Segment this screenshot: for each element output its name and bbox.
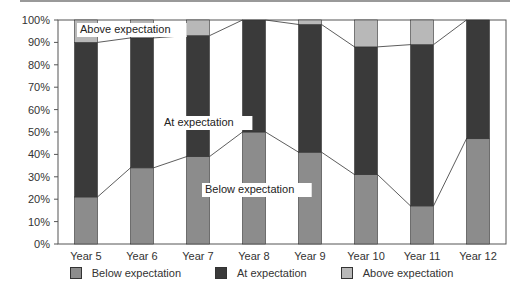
annotation-label: Above expectation (80, 23, 171, 35)
series-line (266, 132, 299, 152)
bar-segment (355, 47, 378, 175)
x-tick-label: Year 7 (182, 250, 213, 262)
series-line (98, 38, 131, 42)
legend-swatch-at (215, 267, 227, 279)
y-tick-label: 0% (34, 238, 50, 250)
x-tick-label: Year 10 (347, 250, 385, 262)
x-tick-label: Year 5 (70, 250, 101, 262)
bar-segment (467, 20, 490, 139)
legend-swatch-below (70, 267, 82, 279)
bar-segment (467, 139, 490, 244)
bar-segment (131, 168, 154, 244)
bar-segment (411, 206, 434, 244)
x-tick-label: Year 8 (238, 250, 269, 262)
y-tick-label: 100% (22, 14, 50, 26)
y-tick-label: 50% (28, 126, 50, 138)
y-tick-label: 40% (28, 148, 50, 160)
bar-segment (187, 20, 210, 36)
legend-label-below: Below expectation (92, 267, 181, 279)
plot-frame (58, 20, 506, 244)
y-tick-label: 80% (28, 59, 50, 71)
y-tick-label: 30% (28, 171, 50, 183)
bar-segment (411, 45, 434, 206)
bar-segment (355, 175, 378, 244)
y-tick-label: 60% (28, 104, 50, 116)
series-line (266, 20, 299, 24)
x-tick-label: Year 9 (294, 250, 325, 262)
bar-segment (75, 197, 98, 244)
series-line (378, 175, 411, 206)
legend-item-above: Above expectation (341, 267, 454, 279)
series-line (434, 139, 467, 206)
stacked-bar-chart: 0%10%20%30%40%50%60%70%80%90%100%Year 5Y… (0, 0, 523, 265)
series-line (210, 20, 243, 36)
bar-segment (75, 42, 98, 197)
series-line (154, 157, 187, 168)
x-tick-label: Year 11 (404, 250, 441, 262)
y-tick-label: 10% (28, 216, 50, 228)
bar-segment (299, 152, 322, 244)
bar-segment (187, 36, 210, 157)
annotation-label: At expectation (164, 116, 234, 128)
legend-swatch-above (341, 267, 353, 279)
legend-item-below: Below expectation (70, 267, 181, 279)
y-tick-label: 70% (28, 81, 50, 93)
y-tick-label: 90% (28, 36, 50, 48)
series-line (378, 45, 411, 47)
legend-label-above: Above expectation (363, 267, 454, 279)
series-line (434, 20, 467, 45)
bar-segment (187, 157, 210, 244)
y-tick-label: 20% (28, 193, 50, 205)
bar-segment (411, 20, 434, 45)
bar-segment (131, 38, 154, 168)
legend-label-at: At expectation (237, 267, 307, 279)
series-line (98, 168, 131, 197)
legend-item-at: At expectation (215, 267, 307, 279)
series-line (322, 24, 355, 46)
x-tick-label: Year 6 (126, 250, 157, 262)
annotation-label: Below expectation (205, 183, 294, 195)
bar-segment (243, 20, 266, 132)
bar-segment (299, 24, 322, 152)
legend: Below expectation At expectation Above e… (0, 267, 523, 279)
bar-segment (355, 20, 378, 47)
series-line (210, 132, 243, 157)
series-line (322, 152, 355, 174)
x-tick-label: Year 12 (459, 250, 497, 262)
bar-segment (299, 20, 322, 24)
